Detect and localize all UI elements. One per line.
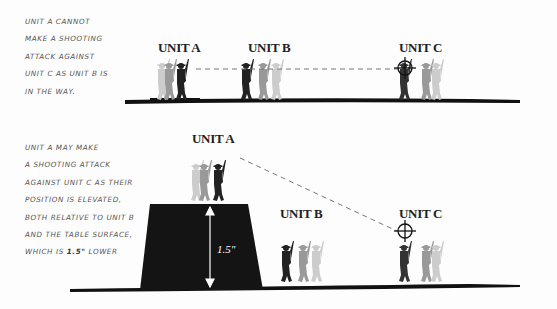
bottom-unit-b-figures	[281, 241, 324, 282]
top-unit-c-figures	[399, 59, 444, 100]
elevated-terrain-block	[140, 204, 263, 290]
bottom-ground-line	[70, 284, 520, 292]
bottom-crosshair-icon	[394, 220, 416, 242]
bottom-line-of-sight	[240, 158, 397, 231]
top-unit-a-figures	[157, 59, 189, 100]
bottom-unit-a-figures	[191, 160, 226, 201]
bottom-unit-c-figures	[399, 241, 444, 282]
diagram-scene	[0, 0, 557, 309]
top-crosshair-icon	[394, 57, 416, 79]
top-unit-b-figures	[241, 59, 284, 100]
height-label: 1.5"	[217, 243, 235, 255]
